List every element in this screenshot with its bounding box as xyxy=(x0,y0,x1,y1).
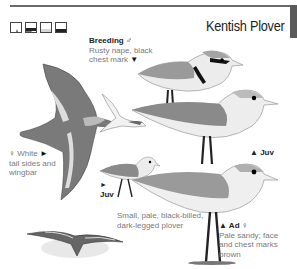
saltmarsh-icon xyxy=(40,22,52,33)
breeding-text-2: chest mark xyxy=(89,55,128,64)
summary-text-1: Small, pale, black-billed, xyxy=(117,211,203,221)
flight-underside-illustration xyxy=(25,222,125,262)
pointer-up-icon: ▲ xyxy=(219,221,227,230)
female-flight-label: ♀ White ► tail sides and wingbar xyxy=(9,149,56,178)
sea-waves-icon xyxy=(55,22,67,33)
page-top-rule xyxy=(10,5,290,7)
habitat-icons xyxy=(10,22,67,33)
breeding-heading: Breeding xyxy=(89,36,124,45)
juv-left-text: Juv xyxy=(100,190,114,200)
adult-female-label: ▲ Ad ♀ Pale sandy; face and chest marks … xyxy=(219,221,278,259)
adult-female-text-1: Pale sandy; face xyxy=(219,231,278,241)
page-edge-tab xyxy=(290,5,297,38)
juv-right-text: Juv xyxy=(260,148,274,157)
female-symbol: ♀ xyxy=(9,149,15,158)
adult-female-text-2: and chest marks xyxy=(219,240,278,250)
summary-label: Small, pale, black-billed, dark-legged p… xyxy=(117,211,203,230)
female-flight-text-2: tail sides and xyxy=(9,159,56,169)
pointer-up-icon: ▲ xyxy=(250,148,258,157)
pointer-down-icon: ▼ xyxy=(130,55,138,64)
breeding-male-label: Breeding ♂ Rusty nape, black chest mark … xyxy=(89,36,153,65)
female-flight-text-3: wingbar xyxy=(9,168,56,178)
female-flight-text-1: White xyxy=(17,149,37,158)
breeding-text-1: Rusty nape, black xyxy=(89,46,153,56)
pointer-right-icon: ► xyxy=(100,180,114,190)
juv-left-label: ► Juv xyxy=(100,180,114,199)
juv-right-label: ▲ Juv xyxy=(250,148,274,158)
adult-heading: Ad xyxy=(229,221,240,230)
male-in-flight-illustration xyxy=(98,92,146,136)
adult-female-text-3: brown xyxy=(219,250,278,260)
pointer-right-icon: ► xyxy=(40,149,48,158)
male-symbol: ♂ xyxy=(126,36,132,45)
shore-icon xyxy=(25,22,37,33)
species-title: Kentish Plover xyxy=(206,17,285,34)
summary-text-2: dark-legged plover xyxy=(117,221,203,231)
coast-mudflat-icon xyxy=(10,22,22,33)
female-symbol: ♀ xyxy=(242,221,248,230)
